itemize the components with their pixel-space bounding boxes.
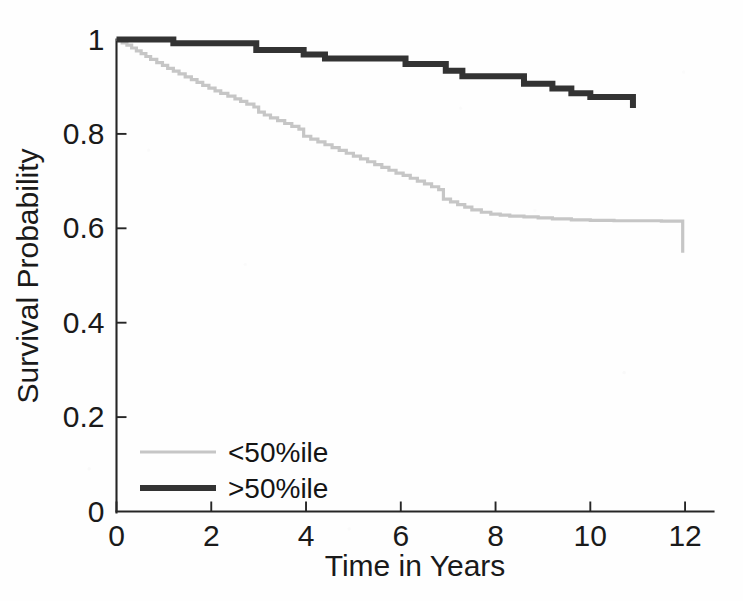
curve-below-median — [117, 40, 683, 253]
legend-label-0: <50%ile — [228, 437, 328, 468]
x-tick-label: 8 — [487, 519, 504, 552]
y-tick-label: 0 — [88, 495, 105, 528]
y-axis-title: Survival Probability — [11, 148, 44, 403]
x-tick-label: 6 — [392, 519, 409, 552]
y-tick-label: 1 — [88, 23, 105, 56]
legend: <50%ile>50%ile — [140, 437, 328, 504]
legend-label-1: >50%ile — [228, 473, 328, 504]
y-axis-tick-labels: 00.20.40.60.81 — [63, 23, 105, 528]
data-curves — [117, 40, 683, 253]
x-tick-label: 2 — [203, 519, 220, 552]
curve-above-median — [117, 40, 633, 108]
x-axis-tick-labels: 024681012 — [108, 519, 702, 552]
y-axis-ticks — [117, 134, 127, 417]
x-tick-label: 0 — [108, 519, 125, 552]
figure-container: 024681012 00.20.40.60.81 Time in Years S… — [0, 0, 743, 601]
x-tick-label: 12 — [668, 519, 701, 552]
x-axis-ticks — [117, 502, 686, 512]
y-tick-label: 0.2 — [63, 400, 105, 433]
x-tick-label: 4 — [298, 519, 315, 552]
x-tick-label: 10 — [574, 519, 607, 552]
survival-plot: 024681012 00.20.40.60.81 Time in Years S… — [0, 0, 743, 601]
x-axis-title: Time in Years — [325, 549, 506, 582]
y-tick-label: 0.8 — [63, 117, 105, 150]
y-tick-label: 0.6 — [63, 211, 105, 244]
y-tick-label: 0.4 — [63, 306, 105, 339]
axis-spines — [117, 40, 714, 513]
